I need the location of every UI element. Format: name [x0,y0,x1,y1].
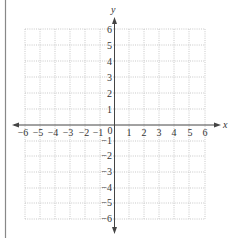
x-tick-label: 2 [142,128,147,138]
x-tick-label: −2 [79,128,90,138]
x-tick-label: −5 [33,128,44,138]
y-tick-label: 4 [92,57,112,67]
x-axis-label: x [223,119,227,130]
x-axis-right-arrow-icon [214,123,221,128]
x-tick-label: 5 [188,128,193,138]
y-tick-label: 6 [92,25,112,35]
y-tick-label: 2 [92,89,112,99]
coordinate-plane-figure: y x −6 −5 −4 −3 −2 −1 0 1 2 3 4 5 6 6 5 … [0,0,234,238]
y-axis-down-arrow-icon [112,227,117,234]
x-tick-label: 3 [157,128,162,138]
y-tick-label: −4 [92,183,112,193]
x-tick-label: 4 [172,128,177,138]
x-tick-label: −3 [63,128,74,138]
y-tick-label: −6 [92,214,112,224]
y-axis-label: y [111,4,115,15]
x-tick-label: 1 [127,128,132,138]
y-tick-label: −3 [92,167,112,177]
coordinate-grid [0,0,234,238]
x-tick-label: 6 [203,128,208,138]
y-axis-up-arrow-icon [112,17,117,24]
x-tick-label: −4 [48,128,59,138]
y-tick-label: −2 [92,151,112,161]
y-tick-label: 5 [92,41,112,51]
y-tick-label: 1 [92,105,112,115]
x-tick-label: −6 [18,128,29,138]
y-tick-label: 3 [92,73,112,83]
y-tick-label: −5 [92,198,112,208]
y-tick-label: −1 [92,136,112,146]
